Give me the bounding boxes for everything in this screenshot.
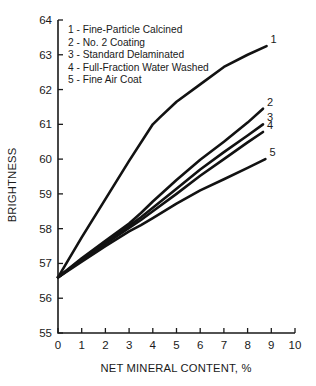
legend-entry-5: 5 - Fine Air Coat	[68, 74, 142, 85]
x-tick-label: 7	[221, 339, 227, 351]
y-tick-label: 60	[39, 153, 52, 165]
curve-end-label-1: 1	[271, 33, 277, 45]
y-tick-label: 62	[39, 84, 52, 96]
y-tick-label: 57	[39, 257, 52, 269]
x-tick-label: 2	[102, 339, 108, 351]
curve-series-5	[58, 159, 265, 277]
x-tick-label: 1	[78, 339, 84, 351]
y-tick-label: 55	[39, 327, 52, 339]
legend-entry-1: 1 - Fine-Particle Calcined	[68, 24, 183, 35]
line-chart: 55565758596061626364 012345678910 12345 …	[0, 0, 316, 386]
x-tick-label: 6	[197, 339, 203, 351]
x-tick-label: 8	[244, 339, 250, 351]
y-tick-label: 59	[39, 188, 52, 200]
x-axis-ticks: 012345678910	[55, 328, 302, 351]
curve-end-labels: 12345	[267, 33, 277, 158]
y-tick-label: 56	[39, 292, 52, 304]
y-axis-title: BRIGHTNESS	[6, 148, 18, 223]
curve-end-label-2: 2	[267, 96, 273, 108]
y-tick-label: 61	[39, 118, 52, 130]
x-tick-label: 4	[150, 339, 157, 351]
x-tick-label: 9	[268, 339, 274, 351]
legend-entry-2: 2 - No. 2 Coating	[68, 37, 145, 48]
chart-legend: 1 - Fine-Particle Calcined2 - No. 2 Coat…	[68, 24, 209, 85]
x-tick-label: 0	[55, 339, 61, 351]
x-axis-title: NET MINERAL CONTENT, %	[100, 362, 251, 374]
legend-entry-3: 3 - Standard Delaminated	[68, 49, 184, 60]
x-tick-label: 10	[289, 339, 302, 351]
x-tick-label: 5	[173, 339, 179, 351]
x-tick-label: 3	[126, 339, 132, 351]
curve-series-2	[58, 109, 263, 278]
curve-end-label-5: 5	[269, 146, 275, 158]
y-axis-ticks: 55565758596061626364	[39, 14, 63, 339]
y-tick-label: 63	[39, 49, 52, 61]
chart-figure: 55565758596061626364 012345678910 12345 …	[0, 0, 316, 386]
curve-end-label-4: 4	[267, 119, 273, 131]
legend-entry-4: 4 - Full-Fraction Water Washed	[68, 62, 209, 73]
y-tick-label: 58	[39, 223, 52, 235]
y-tick-label: 64	[39, 14, 52, 26]
